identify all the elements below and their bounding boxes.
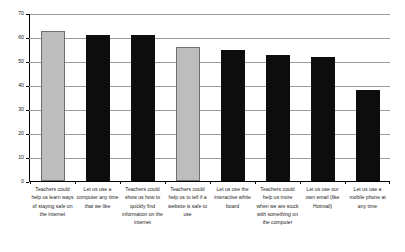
category-label: Teachers could help us to tell if a webs… — [165, 185, 210, 226]
y-tick-mark — [26, 182, 29, 183]
bar-slot — [210, 14, 255, 181]
bar-slot — [345, 14, 390, 181]
y-tick-mark — [26, 14, 29, 15]
category-label: Let us use a mobile phone at any time — [345, 185, 390, 226]
bar — [131, 35, 155, 181]
x-tick-mark — [30, 181, 31, 184]
category-label: Let us use a computer any time that we l… — [75, 185, 120, 226]
y-tick-label: 50 — [18, 59, 24, 64]
x-tick-mark — [120, 181, 121, 184]
y-tick-label: 0 — [21, 179, 24, 184]
bar — [86, 35, 110, 181]
x-tick-mark — [389, 181, 390, 184]
y-tick-mark — [26, 134, 29, 135]
y-tick-label: 10 — [18, 155, 24, 160]
bar-slot — [120, 14, 165, 181]
category-label: Teachers could show us how to quickly fi… — [120, 185, 165, 226]
bar-slot — [255, 14, 300, 181]
x-tick-mark — [345, 181, 346, 184]
bar-chart: 706050403020100 Teachers could help us l… — [0, 0, 405, 252]
category-label: Teachers could help us learn ways of sta… — [30, 185, 75, 226]
y-tick-label: 40 — [18, 83, 24, 88]
bar-slot — [30, 14, 75, 181]
x-tick-mark — [75, 181, 76, 184]
bar-slot — [165, 14, 210, 181]
bar-slot — [75, 14, 120, 181]
y-tick-mark — [26, 38, 29, 39]
bar — [176, 47, 200, 181]
bar — [41, 31, 65, 181]
bar — [311, 57, 335, 181]
y-tick-mark — [26, 62, 29, 63]
x-tick-mark — [255, 181, 256, 184]
bar-slot — [300, 14, 345, 181]
y-tick-label: 70 — [18, 11, 24, 16]
bar — [356, 90, 380, 181]
category-label: Teachers could help us more when we are … — [255, 185, 300, 226]
y-tick-mark — [26, 158, 29, 159]
x-tick-mark — [210, 181, 211, 184]
plot-area: 706050403020100 — [29, 14, 390, 182]
y-tick-mark — [26, 86, 29, 87]
x-tick-mark — [300, 181, 301, 184]
y-tick-label: 60 — [18, 35, 24, 40]
y-tick-label: 30 — [18, 107, 24, 112]
x-axis-category-labels: Teachers could help us learn ways of sta… — [30, 185, 390, 226]
bars-group — [30, 14, 390, 181]
bar — [266, 55, 290, 181]
y-tick-label: 20 — [18, 131, 24, 136]
category-label: Let us use our own email (like Hotmail) — [300, 185, 345, 226]
x-tick-mark — [165, 181, 166, 184]
category-label: Let us use the interactive white board — [210, 185, 255, 226]
y-tick-mark — [26, 110, 29, 111]
bar — [221, 50, 245, 181]
